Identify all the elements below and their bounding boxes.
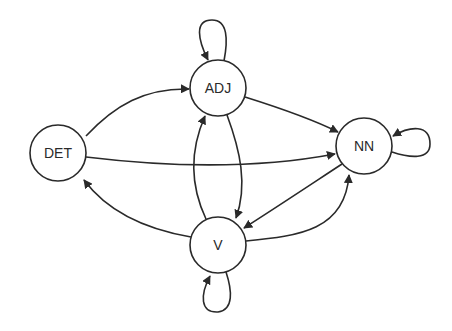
node-adj: ADJ — [190, 60, 246, 116]
edge-det-nn — [86, 154, 335, 165]
node-det-label: DET — [44, 145, 72, 161]
edge-adj-v — [227, 115, 242, 218]
node-nn-label: NN — [354, 138, 374, 154]
edge-adj-nn — [245, 97, 338, 132]
node-v-label: V — [213, 237, 223, 253]
edge-v-det — [84, 180, 191, 237]
node-adj-label: ADJ — [205, 80, 231, 96]
node-nn: NN — [336, 118, 392, 174]
edge-nn-nn — [392, 129, 430, 157]
state-diagram: DET ADJ NN V — [0, 0, 452, 331]
edge-det-adj — [86, 89, 189, 136]
edge-v-v — [203, 272, 230, 312]
edge-adj-adj — [200, 20, 227, 61]
edge-nn-v — [244, 164, 342, 228]
edge-v-nn — [246, 175, 349, 241]
node-v: V — [190, 217, 246, 273]
edge-v-adj — [194, 116, 206, 219]
node-det: DET — [30, 125, 86, 181]
